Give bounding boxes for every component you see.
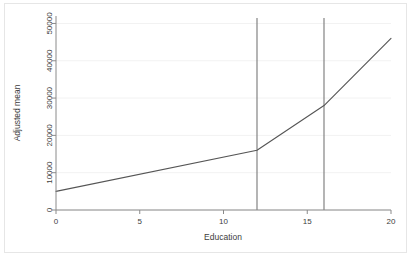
x-axis-ticks: 05101520 [54,210,396,226]
y-tick-label: 20000 [45,124,54,147]
line-chart-plot: 01000020000300004000050000 05101520 Educ… [0,0,411,258]
y-axis-ticks: 01000020000300004000050000 [45,12,56,212]
y-tick-label: 10000 [45,161,54,184]
x-tick-label: 0 [54,217,59,226]
y-tick-label: 40000 [45,49,54,72]
x-tick-label: 5 [138,217,143,226]
y-tick-label: 50000 [45,12,54,35]
x-tick-label: 15 [303,217,312,226]
chart-figure: 01000020000300004000050000 05101520 Educ… [0,0,411,258]
x-tick-label: 20 [387,217,396,226]
y-axis-title: Adjusted mean [12,84,22,141]
x-tick-label: 10 [219,217,228,226]
y-tick-label: 0 [45,207,54,212]
x-axis-title: Education [204,232,242,242]
y-tick-label: 30000 [45,86,54,109]
